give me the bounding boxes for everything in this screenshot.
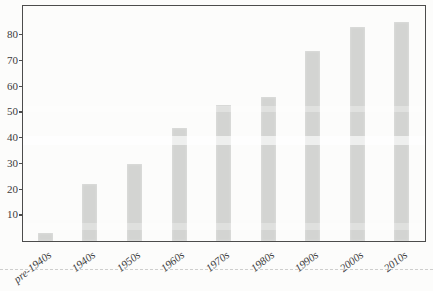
y-tick-label: 70 <box>0 54 18 67</box>
y-tick-mark <box>19 111 23 112</box>
y-tick-label: 40 <box>0 131 18 144</box>
plot-area <box>22 5 426 242</box>
bars-layer <box>23 6 425 241</box>
y-tick-mark <box>19 86 23 87</box>
bar-2000s <box>350 27 365 241</box>
bar-pre-1940s <box>38 233 53 241</box>
y-tick-mark <box>19 214 23 215</box>
x-category-label: 2010s <box>382 248 411 274</box>
y-tick-label: 10 <box>0 208 18 221</box>
y-tick-label: 80 <box>0 28 18 41</box>
y-tick-mark <box>19 34 23 35</box>
x-category-label: 1940s <box>70 248 99 274</box>
y-tick-label: 60 <box>0 80 18 93</box>
x-category-label: 2000s <box>337 248 366 274</box>
bar-1990s <box>305 51 320 241</box>
y-tick-mark <box>19 60 23 61</box>
x-category-label: 1990s <box>292 248 321 274</box>
bar-1960s <box>172 128 187 241</box>
x-category-label: 1970s <box>203 248 232 274</box>
y-tick-mark <box>19 137 23 138</box>
bar-1940s <box>82 184 97 241</box>
bar-2010s <box>394 22 409 241</box>
y-tick-mark <box>19 163 23 164</box>
bar-1970s <box>216 105 231 241</box>
bar-chart-figure: 1020304050607080 pre-1940s1940s1950s1960… <box>0 0 433 291</box>
bar-1950s <box>127 164 142 241</box>
x-category-label: 1960s <box>159 248 188 274</box>
y-tick-label: 30 <box>0 157 18 170</box>
y-tick-mark <box>19 189 23 190</box>
bar-1980s <box>261 97 276 241</box>
x-category-label: 1950s <box>114 248 143 274</box>
page-rule <box>0 269 433 270</box>
x-category-label: pre-1940s <box>11 248 54 285</box>
y-tick-label: 20 <box>0 183 18 196</box>
y-tick-label: 50 <box>0 105 18 118</box>
x-category-label: 1980s <box>248 248 277 274</box>
